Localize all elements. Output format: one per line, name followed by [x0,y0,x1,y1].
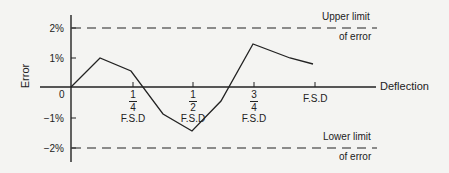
lower-limit-label-2: of error [339,151,371,162]
x-axis-label: Deflection [380,81,429,92]
y-axis-label: Error [19,64,31,88]
y-tick-neg2pct: −2% [24,143,64,154]
lower-limit-label: Lower limit [323,131,371,142]
y-tick-2pct: 2% [24,23,64,34]
y-tick-neg1pct: −1% [24,113,64,124]
origin-label: 0 [59,89,65,100]
y-tick-1pct: 1% [24,53,64,64]
upper-limit-label-2: of error [339,31,371,42]
upper-limit-label: Upper limit [322,11,370,22]
x-tick-three-quarter: 3 4 F.S.D [234,90,274,124]
x-tick-quarter: 1 4 F.S.D [113,90,153,124]
x-tick-fsd: F.S.D [303,93,327,104]
x-tick-half: 1 2 F.S.D [173,90,213,124]
